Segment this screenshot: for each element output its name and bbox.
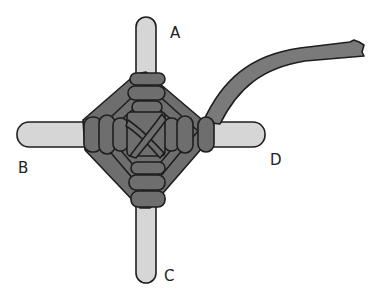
label-c: C: [164, 267, 174, 285]
label-d: D: [270, 151, 282, 169]
wrap-d-2: [177, 116, 193, 153]
wrap-a-2: [128, 86, 165, 100]
wrap-d-3: [198, 117, 214, 152]
wrap-a-1: [130, 73, 165, 85]
wrap-c-2: [129, 175, 165, 190]
label-b: B: [18, 159, 28, 177]
wrap-b-3: [113, 118, 128, 151]
wrap-c-3: [131, 191, 165, 207]
yarn-tail: [203, 40, 364, 124]
gods-eye-illustration: A B C D: [0, 0, 368, 290]
wrap-c-1: [131, 162, 165, 174]
label-a: A: [170, 24, 181, 42]
